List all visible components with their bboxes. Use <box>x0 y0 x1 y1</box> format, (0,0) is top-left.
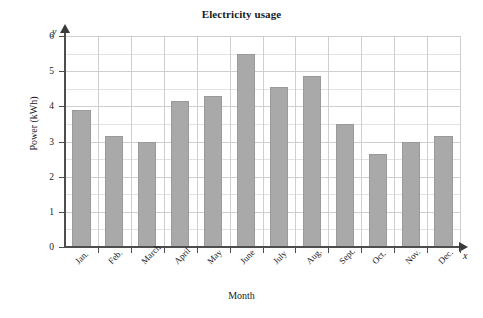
gridline-vertical <box>197 36 198 247</box>
bar-may <box>204 96 222 247</box>
y-tick-label-text: 5 <box>36 66 54 76</box>
y-tick-mark <box>59 71 65 72</box>
y-tick-mark <box>59 177 65 178</box>
y-tick-mark <box>59 212 65 213</box>
x-tick-mark <box>460 248 461 253</box>
plot-area <box>65 36 460 247</box>
y-tick-label-text: 4 <box>36 101 54 111</box>
x-tick-mark <box>295 248 296 253</box>
bar-sept <box>336 124 354 247</box>
x-axis-symbol: x <box>463 250 467 261</box>
x-axis-title: Month <box>0 290 483 301</box>
bar-july <box>270 87 288 247</box>
gridline-vertical <box>394 36 395 247</box>
x-tick-mark <box>197 248 198 253</box>
gridline-vertical <box>328 36 329 247</box>
x-tick-label-feb: Feb. <box>106 248 124 266</box>
bar-march <box>138 142 156 248</box>
gridline-vertical <box>131 36 132 247</box>
x-tick-mark <box>98 248 99 253</box>
x-tick-mark <box>394 248 395 253</box>
bar-feb <box>105 136 123 247</box>
y-tick-mark <box>59 142 65 143</box>
gridline-vertical <box>427 36 428 247</box>
y-axis-title: Power (kWh) <box>28 64 39 184</box>
y-axis-arrow-icon <box>60 24 70 33</box>
y-tick-label-text: 6 <box>36 31 54 41</box>
x-tick-label-dec: Dec. <box>436 247 455 266</box>
x-tick-label-aug: Aug. <box>304 246 324 266</box>
bar-aug <box>303 76 321 247</box>
gridline-vertical <box>295 36 296 247</box>
y-tick-label-text: 2 <box>36 172 54 182</box>
bar-jan <box>72 110 90 247</box>
bar-june <box>237 54 255 247</box>
y-tick-label-text: 1 <box>36 207 54 217</box>
gridline-vertical <box>164 36 165 247</box>
gridline-vertical <box>361 36 362 247</box>
x-tick-label-july: July <box>271 248 289 266</box>
x-tick-mark <box>361 248 362 253</box>
gridline-vertical <box>230 36 231 247</box>
bar-april <box>171 101 189 247</box>
x-tick-mark <box>328 248 329 253</box>
y-tick-mark <box>59 247 65 248</box>
x-tick-label-nov: Nov. <box>403 247 422 266</box>
x-tick-label-jan: Jan. <box>73 249 90 266</box>
y-tick-label: 6 <box>32 31 54 41</box>
x-tick-mark <box>427 248 428 253</box>
x-tick-mark <box>164 248 165 253</box>
chart-figure: Electricity usage y x 0123456 Jan.Feb.Ma… <box>0 0 483 318</box>
gridline-vertical <box>263 36 264 247</box>
y-tick-label: 0 <box>32 242 54 252</box>
x-tick-label-june: June <box>238 247 257 266</box>
bar-dec <box>434 136 452 247</box>
x-tick-mark <box>131 248 132 253</box>
y-tick-mark <box>59 106 65 107</box>
x-tick-label-may: May <box>205 247 224 266</box>
bar-oct <box>369 154 387 247</box>
x-tick-mark <box>230 248 231 253</box>
x-tick-mark <box>263 248 264 253</box>
y-tick-label-text: 3 <box>36 137 54 147</box>
gridline-vertical <box>98 36 99 247</box>
y-tick-label: 1 <box>32 207 54 217</box>
y-tick-mark <box>59 36 65 37</box>
x-tick-label-oct: Oct. <box>370 248 388 266</box>
gridline-vertical <box>460 36 461 247</box>
x-tick-label-april: April <box>172 246 193 267</box>
chart-title: Electricity usage <box>0 8 483 20</box>
x-tick-label-sept: Sept. <box>337 246 357 266</box>
y-tick-label-text: 0 <box>36 242 54 252</box>
bar-nov <box>402 142 420 248</box>
y-axis-line <box>64 31 66 248</box>
